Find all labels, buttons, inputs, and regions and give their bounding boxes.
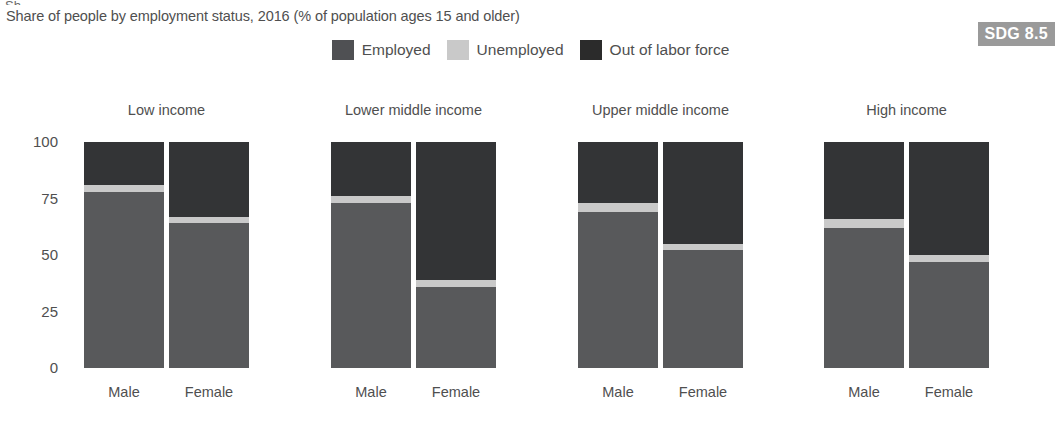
bar-segment-employed[interactable] [824,228,904,368]
bar-high-income-female[interactable] [909,142,989,368]
bar-segment-employed[interactable] [416,287,496,368]
bar-lower-middle-income-female[interactable] [416,142,496,368]
bar-segment-out-of-labor-force[interactable] [663,142,743,244]
bar-segment-unemployed[interactable] [416,280,496,287]
bar-segment-employed[interactable] [169,223,249,368]
bar-upper-middle-income-female[interactable] [663,142,743,368]
bar-segment-employed[interactable] [909,262,989,368]
bar-upper-middle-income-male[interactable] [578,142,658,368]
bar-segment-employed[interactable] [578,212,658,368]
bar-segment-out-of-labor-force[interactable] [331,142,411,196]
bar-lower-middle-income-male[interactable] [331,142,411,368]
x-axis-label-3: Female [416,383,496,402]
bar-segment-out-of-labor-force[interactable] [909,142,989,255]
x-axis-label-4: Male [578,383,658,402]
bar-segment-unemployed[interactable] [663,244,743,251]
x-axis-label-6: Male [824,383,904,402]
bar-segment-unemployed[interactable] [909,255,989,262]
bar-segment-employed[interactable] [84,192,164,368]
bar-segment-unemployed[interactable] [578,203,658,212]
bar-low-income-female[interactable] [169,142,249,368]
bar-segment-out-of-labor-force[interactable] [169,142,249,217]
bar-segment-out-of-labor-force[interactable] [84,142,164,185]
x-axis-label-7: Female [909,383,989,402]
bar-segment-out-of-labor-force[interactable] [578,142,658,203]
bar-segment-out-of-labor-force[interactable] [416,142,496,280]
bar-segment-unemployed[interactable] [169,217,249,224]
bar-segment-employed[interactable] [663,250,743,368]
x-axis-label-2: Male [331,383,411,402]
bar-segment-unemployed[interactable] [331,196,411,203]
x-axis-label-0: Male [84,383,164,402]
bar-segment-employed[interactable] [331,203,411,368]
chart-figure: Sh Share of people by employment status,… [0,0,1061,431]
bar-segment-unemployed[interactable] [84,185,164,192]
x-axis-label-1: Female [169,383,249,402]
x-axis-label-5: Female [663,383,743,402]
bar-low-income-male[interactable] [84,142,164,368]
plot-area [0,0,1061,431]
bar-segment-unemployed[interactable] [824,219,904,228]
bar-segment-out-of-labor-force[interactable] [824,142,904,219]
bar-high-income-male[interactable] [824,142,904,368]
